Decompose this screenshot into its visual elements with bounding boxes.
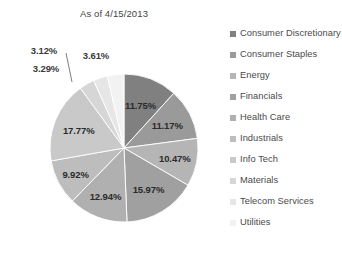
- pie-plot-area: 11.75%11.17%10.47%15.97%12.94%9.92%17.77…: [0, 0, 228, 263]
- pie-svg: [0, 0, 228, 263]
- legend-item[interactable]: Consumer Staples: [230, 49, 342, 61]
- legend-swatch-icon: [230, 178, 236, 184]
- legend-item-label: Materials: [240, 175, 278, 187]
- legend-item-label: Info Tech: [240, 154, 278, 166]
- legend-item-label: Industrials: [240, 133, 283, 145]
- legend-item[interactable]: Consumer Discretionary: [230, 28, 342, 40]
- legend-item[interactable]: Materials: [230, 175, 342, 187]
- legend-item-label: Utilities: [240, 217, 270, 229]
- legend-item-label: Health Care: [240, 112, 290, 124]
- legend-item-label: Energy: [240, 70, 270, 82]
- legend-item[interactable]: Financials: [230, 91, 342, 103]
- pie-slice-group: [50, 74, 198, 222]
- legend: Consumer DiscretionaryConsumer StaplesEn…: [230, 28, 342, 238]
- legend-swatch-icon: [230, 115, 236, 121]
- pie-slice-label: 3.61%: [83, 50, 109, 61]
- legend-item-label: Financials: [240, 91, 282, 103]
- legend-swatch-icon: [230, 136, 236, 142]
- legend-item[interactable]: Industrials: [230, 133, 342, 145]
- legend-item-label: Telecom Services: [240, 196, 314, 208]
- label-leader-line: [66, 53, 72, 82]
- legend-item-label: Consumer Discretionary: [240, 28, 341, 40]
- pie-slice-label: 17.77%: [63, 124, 95, 135]
- legend-item[interactable]: Health Care: [230, 112, 342, 124]
- pie-slice-label: 10.47%: [159, 153, 191, 164]
- legend-item[interactable]: Utilities: [230, 217, 342, 229]
- pie-slice-label: 11.75%: [125, 100, 156, 111]
- legend-swatch-icon: [230, 52, 236, 58]
- legend-swatch-icon: [230, 31, 236, 37]
- legend-swatch-icon: [230, 73, 236, 79]
- pie-slice-label: 3.12%: [31, 45, 57, 56]
- pie-slice-label: 3.29%: [33, 63, 59, 74]
- pie-slice-label: 15.97%: [133, 183, 165, 194]
- legend-swatch-icon: [230, 94, 236, 100]
- legend-item[interactable]: Energy: [230, 70, 342, 82]
- pie-slice-label: 9.92%: [62, 168, 88, 179]
- legend-swatch-icon: [230, 220, 236, 226]
- legend-swatch-icon: [230, 199, 236, 205]
- pie-chart-figure: As of 4/15/2013 11.75%11.17%10.47%15.97%…: [0, 0, 342, 263]
- legend-item[interactable]: Telecom Services: [230, 196, 342, 208]
- pie-slice-label: 12.94%: [90, 191, 122, 202]
- legend-item-label: Consumer Staples: [240, 49, 317, 61]
- leader-line-group: [66, 53, 72, 82]
- legend-item[interactable]: Info Tech: [230, 154, 342, 166]
- legend-swatch-icon: [230, 157, 236, 163]
- pie-slice-label: 11.17%: [152, 120, 183, 131]
